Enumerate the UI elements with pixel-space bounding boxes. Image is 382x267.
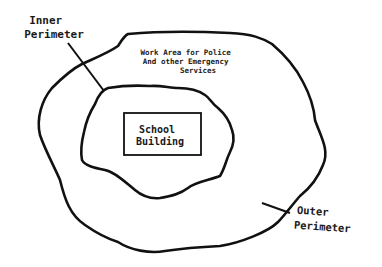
work-area-label-3: Services [180,66,216,75]
inner-perimeter-label-1: Inner [29,14,62,27]
svg-text:Outer Perimeter: Outer Perimeter [294,204,353,235]
inner-perimeter-label-2: Perimeter [24,28,84,41]
school-building-label-1: School [139,124,175,135]
svg-text:School Building: School Building [136,124,184,147]
outer-perimeter-pointer [262,203,290,213]
work-area-label-2: And other Emergency [143,57,229,66]
inner-perimeter-pointer [68,43,104,91]
school-building-label-2: Building [136,136,184,147]
perimeter-diagram: Inner Perimeter Work Area for Police And… [0,0,382,267]
svg-text:Work Area for Police And o: Work Area for Police And other Emergency… [141,48,236,75]
work-area-label-1: Work Area for Police [141,48,232,57]
svg-text:Inner Perimeter: Inner Perimeter [24,14,84,41]
outer-perimeter-label-1: Outer [297,204,329,218]
outer-perimeter-label-2: Perimeter [294,218,352,234]
